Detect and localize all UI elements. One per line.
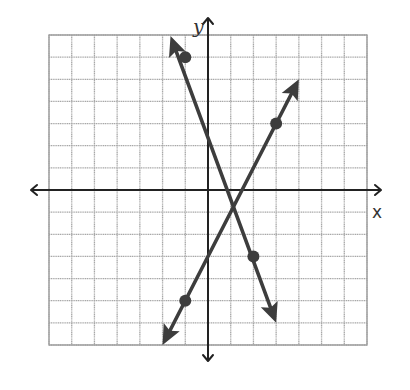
data-point [270, 118, 282, 130]
y-axis-label: y [192, 15, 204, 37]
axes: x y [31, 15, 382, 361]
line-segment [175, 49, 271, 309]
x-axis-label: x [372, 202, 382, 222]
data-point [179, 295, 191, 307]
data-point [247, 250, 259, 262]
data-point [179, 51, 191, 63]
coordinate-plane: x y [0, 0, 410, 390]
